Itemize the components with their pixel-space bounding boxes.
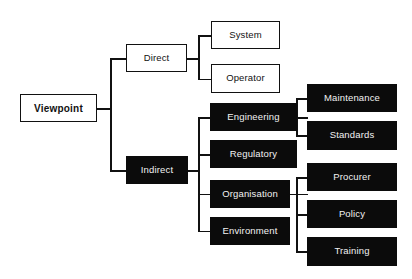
connector-indirect-spine (198, 117, 200, 232)
connector-direct-to-operator (198, 79, 212, 81)
viewpoint-tree-diagram: Viewpoint Direct Indirect System Operato… (0, 0, 412, 279)
node-standards[interactable]: Standards (307, 121, 397, 150)
connector-root-spine (110, 58, 112, 171)
node-engineering[interactable]: Engineering (210, 103, 297, 131)
connector-root-to-direct (110, 58, 127, 60)
connector-direct-spine (198, 35, 200, 80)
node-environment[interactable]: Environment (210, 217, 290, 245)
node-viewpoint[interactable]: Viewpoint (20, 94, 97, 122)
node-indirect[interactable]: Indirect (126, 156, 188, 184)
node-organisation[interactable]: Organisation (210, 180, 290, 208)
node-system[interactable]: System (211, 21, 280, 49)
node-training[interactable]: Training (307, 237, 397, 266)
node-operator[interactable]: Operator (211, 64, 280, 93)
connector-organisation-stub (290, 194, 308, 196)
node-procurer[interactable]: Procurer (307, 163, 397, 191)
node-regulatory[interactable]: Regulatory (210, 140, 297, 168)
connector-root-to-indirect (110, 170, 127, 172)
connector-direct-to-system (198, 35, 212, 37)
node-policy[interactable]: Policy (307, 200, 397, 228)
node-maintenance[interactable]: Maintenance (307, 84, 397, 112)
node-direct[interactable]: Direct (126, 44, 187, 72)
